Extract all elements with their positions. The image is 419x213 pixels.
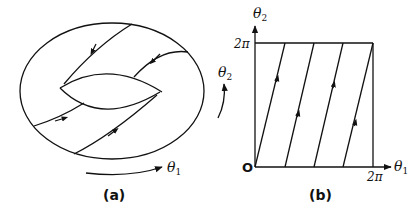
segment-2: [285, 43, 314, 167]
x-tick-2pi: 2π: [366, 170, 384, 184]
segment-3: [314, 43, 343, 167]
trajectory-2: [134, 52, 188, 77]
torus-hole-upper: [60, 74, 162, 92]
panel-a-caption: (a): [103, 187, 125, 203]
segment-4: [343, 43, 373, 167]
arrow-icon: [152, 54, 160, 62]
panel-a-theta1-label: θ1: [167, 159, 181, 177]
panel-b-theta1-axis-label: θ1: [394, 158, 408, 176]
theta2-direction-arrow: [218, 84, 224, 118]
panel-a-torus: [20, 23, 224, 175]
arrow-icon: [355, 122, 356, 126]
panel-a-theta2-label: θ2: [218, 64, 232, 82]
panel-b-caption: (b): [309, 187, 332, 203]
torus-outer-ellipse: [20, 23, 204, 159]
trajectory-4: [74, 95, 157, 154]
panel-b-square: [255, 26, 391, 167]
arrow-icon: [55, 118, 65, 121]
theta1-direction-arrow: [86, 167, 162, 175]
trajectory-3: [34, 103, 84, 126]
segment-1: [255, 43, 285, 167]
panel-b-theta2-axis-label: θ2: [253, 5, 267, 23]
origin-label: O: [242, 160, 253, 175]
y-tick-2pi: 2π: [233, 37, 251, 51]
figure-canvas: θ1 θ2 (a) θ2 θ1 2π 2π O (b): [0, 0, 419, 213]
